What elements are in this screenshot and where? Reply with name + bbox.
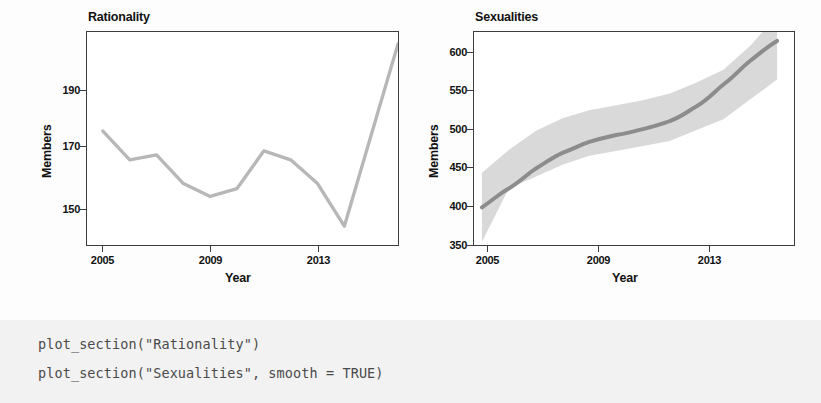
xaxis-title-sexualities: Year — [612, 271, 638, 285]
xtick-label-right-2009: 2009 — [582, 254, 615, 266]
xtick-label-left-2009: 2009 — [194, 254, 227, 266]
panel-title-rationality: Rationality — [88, 10, 150, 24]
panel-rationality: Rationality 150 170 190 Members 2005 — [10, 0, 410, 305]
confidence-ribbon-sexualities — [482, 32, 777, 242]
code-line-1: plot_section("Rationality") — [38, 336, 260, 352]
yaxis-title-rationality: Members — [40, 125, 54, 178]
smooth-chart-sexualities — [474, 32, 794, 245]
ytick-label-right-400: 400 — [435, 200, 467, 212]
xaxis-title-rationality: Year — [225, 271, 251, 285]
ytick-label-left-170: 170 — [50, 140, 80, 152]
xtick-mark-right-2009 — [598, 246, 599, 252]
ytick-label-right-550: 550 — [435, 84, 467, 96]
xtick-label-right-2013: 2013 — [693, 254, 726, 266]
xtick-mark-left-2009 — [210, 246, 211, 252]
ytick-label-left-150: 150 — [50, 203, 80, 215]
figure-area: Rationality 150 170 190 Members 2005 — [0, 0, 821, 305]
series-line-rationality — [103, 44, 398, 226]
line-chart-rationality — [87, 32, 398, 245]
code-block: plot_section("Rationality") plot_section… — [0, 320, 821, 403]
ytick-label-right-350: 350 — [435, 239, 467, 251]
plot-area-sexualities — [473, 31, 795, 246]
panel-title-sexualities: Sexualities — [475, 10, 538, 24]
page-canvas: Rationality 150 170 190 Members 2005 — [0, 0, 821, 403]
xtick-mark-right-2005 — [487, 246, 488, 252]
ytick-label-right-600: 600 — [435, 46, 467, 58]
code-line-2: plot_section("Sexualities", smooth = TRU… — [38, 365, 384, 381]
yaxis-title-sexualities: Members — [427, 125, 441, 178]
plot-area-rationality — [86, 31, 399, 246]
xtick-mark-left-2013 — [318, 246, 319, 252]
xtick-label-right-2005: 2005 — [471, 254, 504, 266]
xtick-mark-right-2013 — [709, 246, 710, 252]
ytick-label-left-190: 190 — [50, 84, 80, 96]
panel-sexualities: Sexualities 350 400 450 500 550 600 Memb… — [415, 0, 815, 305]
xtick-label-left-2013: 2013 — [302, 254, 335, 266]
xtick-label-left-2005: 2005 — [86, 254, 119, 266]
xtick-mark-left-2005 — [102, 246, 103, 252]
